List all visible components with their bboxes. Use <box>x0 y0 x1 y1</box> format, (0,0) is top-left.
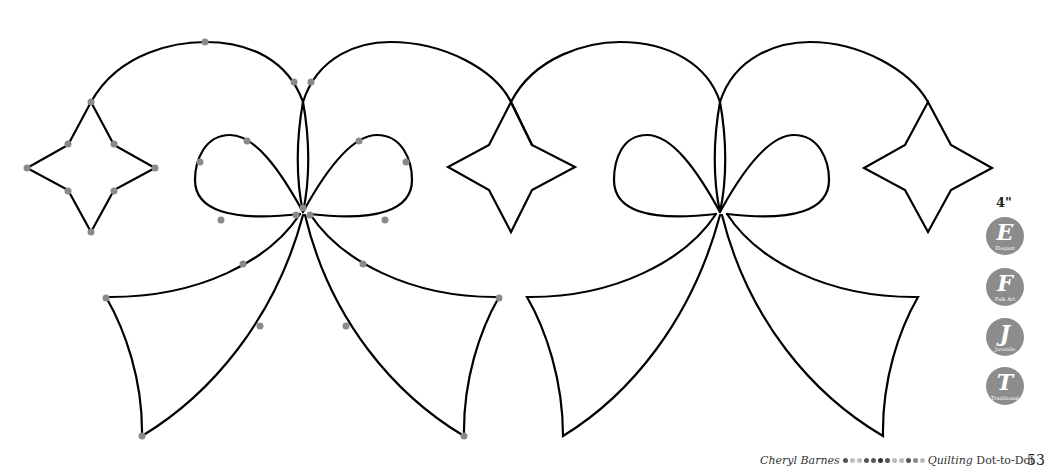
page-number: 53 <box>1027 452 1045 468</box>
badge-caption: Juvenile <box>986 346 1024 352</box>
footer-dot <box>850 458 855 463</box>
arch-4 <box>720 42 928 102</box>
footer-title-rest: Dot-to-Dot <box>976 454 1034 467</box>
bow-left <box>106 102 499 436</box>
footer-dot <box>920 458 925 463</box>
badge-letter: F <box>986 270 1024 296</box>
footer-author: Cheryl Barnes <box>760 454 840 467</box>
arch-1 <box>91 42 303 102</box>
footer-dot <box>892 458 897 463</box>
footer-dot-divider <box>843 458 925 463</box>
quilting-pattern <box>0 0 1048 473</box>
size-label: 4" <box>996 195 1012 210</box>
page-footer: Cheryl Barnes Quilting Dot-to-Dot <box>760 454 1035 467</box>
badge-letter: J <box>986 320 1024 346</box>
badge-traditional: T Traditional <box>986 367 1024 405</box>
footer-dot <box>843 458 848 463</box>
footer-dot <box>878 458 883 463</box>
arch-3 <box>511 42 720 102</box>
star-right <box>864 102 992 232</box>
badge-letter: E <box>986 219 1024 245</box>
badge-caption: Traditional <box>986 395 1024 401</box>
bow-right <box>527 102 918 436</box>
footer-title-italic: Quilting <box>928 454 973 467</box>
star-left <box>27 102 155 232</box>
badge-caption: Folk Art <box>986 296 1024 302</box>
arch-2 <box>303 42 511 102</box>
footer-dot <box>871 458 876 463</box>
footer-dot <box>864 458 869 463</box>
footer-dot <box>899 458 904 463</box>
footer-dot <box>913 458 918 463</box>
guide-dots <box>24 39 503 440</box>
footer-dot <box>857 458 862 463</box>
footer-dot <box>885 458 890 463</box>
badge-juvenile: J Juvenile <box>986 318 1024 356</box>
badge-caption: Elegant <box>986 245 1024 251</box>
star-middle <box>448 102 575 232</box>
badge-elegant: E Elegant <box>986 217 1024 255</box>
footer-dot <box>906 458 911 463</box>
badge-folk-art: F Folk Art <box>986 268 1024 306</box>
badge-letter: T <box>986 369 1024 395</box>
